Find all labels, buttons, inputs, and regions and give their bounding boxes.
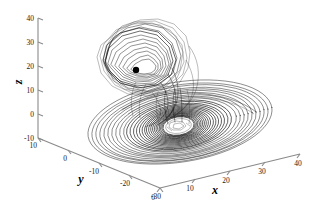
plot-canvas: 40 30 20 10 0 -10 z 10 0 -10 -20 -30 y <box>0 0 320 210</box>
attractor-figure: 40 30 20 10 0 -10 z 10 0 -10 -20 -30 y <box>0 0 320 210</box>
upper-equilibrium-dot <box>133 67 139 73</box>
x-tick-30: 30 <box>258 167 266 176</box>
z-axis-ticks <box>38 18 43 140</box>
y-tick-neg20: -20 <box>120 179 130 188</box>
axes-group: 40 30 20 10 0 -10 z 10 0 -10 -20 -30 y <box>11 14 302 202</box>
x-tick-10: 10 <box>186 184 194 193</box>
x-tick-40: 40 <box>294 159 302 168</box>
z-tick-10: 10 <box>27 86 35 95</box>
y-axis-label: y <box>76 172 84 186</box>
z-tick-30: 30 <box>27 38 35 47</box>
z-tick-0: 0 <box>30 110 34 119</box>
y-tick-0: 0 <box>63 154 67 163</box>
y-tick-10: 10 <box>30 141 38 150</box>
y-tick-neg10: -10 <box>89 167 99 176</box>
z-axis-label: z <box>11 79 25 85</box>
x-axis-label: x <box>211 183 218 197</box>
x-tick-20: 20 <box>222 176 230 185</box>
x-tick-0: 0 <box>151 193 155 202</box>
z-tick-40: 40 <box>27 14 35 23</box>
trajectory-group <box>82 19 278 176</box>
lower-scroll <box>82 68 278 176</box>
z-tick-20: 20 <box>27 62 35 71</box>
